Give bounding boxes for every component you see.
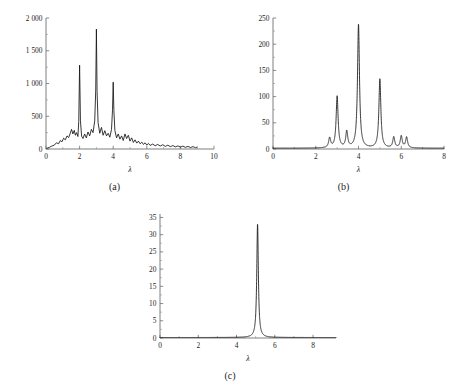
spectrum-curve (160, 224, 336, 337)
y-tick-label: 25 (149, 247, 157, 256)
panel-b-caption: (b) (229, 181, 458, 192)
panel-c-caption: (c) (114, 370, 346, 381)
x-tick-label: 2 (314, 152, 318, 161)
y-tick-label: 35 (149, 213, 157, 222)
y-tick-label: 0 (266, 145, 270, 154)
y-tick-label: 5 (153, 316, 157, 325)
x-tick-label: 6 (145, 152, 149, 161)
x-tick-label: 8 (442, 152, 446, 161)
x-axis-label: λ (245, 354, 250, 363)
y-tick-label: 15 (149, 282, 157, 291)
x-axis-label: λ (356, 165, 361, 174)
x-tick-label: 4 (111, 152, 115, 161)
x-axis-label: λ (127, 165, 132, 174)
x-tick-label: 0 (44, 152, 48, 161)
y-tick-label: 1 000 (26, 79, 43, 88)
x-tick-label: 4 (357, 152, 361, 161)
panel-a: 05001 0001 5002 0000246810λ (a) (0, 2, 229, 194)
panel-b: 05010015020025002468λ (b) (229, 2, 458, 194)
spectrum-curve (273, 24, 444, 148)
x-tick-label: 6 (273, 341, 277, 350)
y-tick-label: 150 (258, 66, 269, 75)
plot-c: 0510152025303502468λ (114, 194, 346, 387)
y-tick-label: 0 (39, 145, 43, 154)
x-tick-label: 4 (235, 341, 239, 350)
y-tick-label: 250 (258, 14, 269, 23)
x-tick-label: 2 (78, 152, 82, 161)
x-tick-label: 8 (311, 341, 315, 350)
y-tick-label: 10 (149, 299, 157, 308)
panel-c: 0510152025303502468λ (c) (114, 194, 346, 387)
x-tick-label: 8 (179, 152, 183, 161)
plot-a: 05001 0001 5002 0000246810λ (0, 2, 229, 194)
y-tick-label: 0 (153, 334, 157, 343)
y-tick-label: 200 (258, 40, 269, 49)
panel-a-caption: (a) (0, 181, 229, 192)
y-tick-label: 100 (258, 92, 269, 101)
y-tick-label: 1 500 (26, 46, 43, 55)
y-tick-label: 20 (149, 265, 157, 274)
x-tick-label: 0 (158, 341, 162, 350)
y-tick-label: 2 000 (26, 14, 43, 23)
x-tick-label: 2 (196, 341, 200, 350)
x-tick-label: 10 (210, 152, 218, 161)
x-tick-label: 6 (399, 152, 403, 161)
y-tick-label: 500 (31, 112, 42, 121)
spectrum-curve (47, 29, 197, 148)
y-tick-label: 30 (149, 230, 157, 239)
plot-b: 05010015020025002468λ (229, 2, 458, 194)
figure-three-spectra: 05001 0001 5002 0000246810λ (a) 05010015… (0, 0, 458, 387)
x-tick-label: 0 (271, 152, 275, 161)
y-tick-label: 50 (262, 118, 270, 127)
